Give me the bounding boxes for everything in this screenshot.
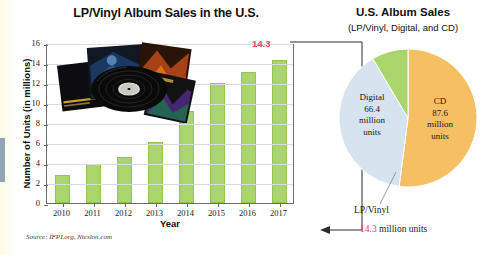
y-tick-label: 12 bbox=[14, 78, 40, 88]
pie-label-digital: Digital 66.4 million units bbox=[344, 92, 400, 138]
gridline bbox=[47, 184, 293, 185]
bar bbox=[210, 83, 226, 203]
y-tick-mark bbox=[44, 45, 48, 46]
bar-chart-x-axis-label: Year bbox=[46, 218, 294, 229]
gridline bbox=[47, 164, 293, 165]
y-tick-mark bbox=[44, 185, 48, 186]
y-tick-label: 10 bbox=[14, 98, 40, 108]
bar-chart-title: LP/Vinyl Album Sales in the U.S. bbox=[36, 6, 296, 20]
y-tick-label: 14 bbox=[14, 58, 40, 68]
bar bbox=[148, 142, 164, 203]
lpvinyl-value-unit: million units bbox=[377, 224, 428, 234]
y-tick-mark bbox=[44, 65, 48, 66]
x-tick-mark bbox=[187, 203, 188, 207]
peak-value-annotation: 14.3 bbox=[252, 38, 271, 49]
pie-chart-panel: U.S. Album Sales (LP/Vinyl, Digital, and… bbox=[310, 0, 496, 255]
y-tick-label: 16 bbox=[14, 38, 40, 48]
bar-chart-panel: LP/Vinyl Album Sales in the U.S. Number … bbox=[0, 0, 310, 255]
x-tick-mark bbox=[156, 203, 157, 207]
pie-label-lpvinyl: LP/Vinyl bbox=[354, 205, 474, 215]
y-tick-label: 0 bbox=[14, 198, 40, 208]
x-tick-mark bbox=[94, 203, 95, 207]
pie-label-cd: CD 87.6 million units bbox=[414, 96, 466, 142]
pie-label-lpvinyl-value: 14.3 million units bbox=[360, 224, 496, 234]
y-tick-mark bbox=[44, 145, 48, 146]
y-tick-mark bbox=[44, 165, 48, 166]
y-tick-label: 8 bbox=[14, 118, 40, 128]
y-tick-mark bbox=[44, 125, 48, 126]
lpvinyl-leader-line bbox=[376, 172, 402, 206]
pie-chart-title: U.S. Album Sales bbox=[310, 6, 496, 18]
y-tick-mark bbox=[44, 85, 48, 86]
x-tick-mark bbox=[218, 203, 219, 207]
pie-chart-subtitle: (LP/Vinyl, Digital, and CD) bbox=[310, 22, 496, 33]
y-tick-mark bbox=[44, 205, 48, 206]
bar bbox=[55, 175, 71, 203]
y-tick-label: 4 bbox=[14, 158, 40, 168]
x-tick-mark bbox=[280, 203, 281, 207]
x-tick-mark bbox=[249, 203, 250, 207]
bar bbox=[272, 60, 288, 203]
gridline bbox=[47, 124, 293, 125]
y-tick-label: 2 bbox=[14, 178, 40, 188]
lpvinyl-value-number: 14.3 bbox=[360, 224, 377, 234]
gridline bbox=[47, 144, 293, 145]
y-tick-label: 6 bbox=[14, 138, 40, 148]
source-citation: Source: IFPI.org, Nieslon.com bbox=[26, 233, 112, 241]
x-tick-mark bbox=[125, 203, 126, 207]
x-tick-label: 2017 bbox=[259, 208, 299, 218]
y-tick-mark bbox=[44, 105, 48, 106]
x-tick-mark bbox=[63, 203, 64, 207]
vinyl-records-photo bbox=[55, 33, 205, 123]
